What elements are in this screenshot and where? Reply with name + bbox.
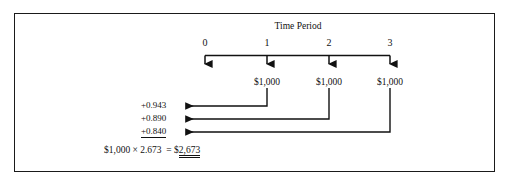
period-label-1: 1: [265, 38, 270, 48]
equation-principal: $1,000: [104, 145, 130, 155]
page-title: Time Period: [275, 22, 322, 32]
discount-factor-1: +0.943: [141, 101, 166, 110]
equation-result: 2,673: [179, 145, 200, 158]
discount-connector-period-3: [186, 88, 390, 132]
timeline-diagram-figure: Time Period 0 1 2 3 $1,000 $1,000 $1,000…: [0, 0, 509, 184]
discount-factor-2: +0.890: [141, 114, 166, 123]
cash-flow-amount-period-2: $1,000: [316, 78, 342, 88]
diagram-lines-layer: [0, 0, 509, 184]
cash-flow-amount-period-1: $1,000: [254, 78, 280, 88]
discount-connector-period-2: [186, 88, 329, 119]
period-label-0: 0: [203, 38, 208, 48]
cash-flow-amount-period-3: $1,000: [377, 78, 403, 88]
present-value-equation: $1,000 × 2.673 = $2,673: [104, 146, 200, 156]
discount-factor-3: +0.840: [141, 127, 166, 138]
equation-annuity-factor: 2.673: [140, 145, 161, 155]
discount-connector-period-1: [186, 88, 267, 106]
period-label-3: 3: [388, 38, 393, 48]
period-label-2: 2: [327, 38, 332, 48]
